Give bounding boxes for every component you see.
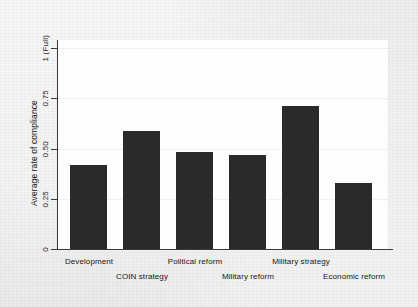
x-label-coin-strategy: COIN strategy [97,272,187,281]
y-axis-line [57,40,58,250]
bar-military-strategy [282,106,319,249]
x-label-political-reform: Political reform [150,257,240,266]
x-label-economic-reform: Economic reform [309,272,399,281]
bar-chart: 1 (Full) 0.75 0.50 0.25 0 Average rate o… [0,0,418,307]
gridline-075 [57,98,388,99]
bar-development [70,165,107,249]
bar-political-reform [176,152,213,249]
x-axis-line [57,249,393,250]
y-tick-label-0-wrap: 0 [36,242,50,256]
x-label-development: Development [44,257,134,266]
y-tick-label-075: 0.75 [41,90,50,106]
bar-military-reform [229,155,266,249]
gridline-050 [57,149,388,150]
y-axis-title: Average rate of compliance [27,63,41,243]
x-label-military-reform: Military reform [203,272,293,281]
x-label-military-strategy: Military strategy [256,257,346,266]
y-tick-label-1-wrap: 1 (Full) [36,30,50,66]
bar-economic-reform [335,183,372,249]
bar-coin-strategy [123,131,160,249]
y-tick-label-050: 0.50 [41,141,50,157]
y-tick-mark-075 [51,98,57,99]
y-tick-mark-0 [51,249,57,250]
y-tick-mark-025 [51,199,57,200]
y-tick-label-025: 0.25 [41,191,50,207]
y-tick-mark-050 [51,149,57,150]
gridline-1 [57,48,388,49]
y-tick-label-1: 1 (Full) [41,35,50,62]
y-tick-label-0: 0 [41,247,50,252]
y-tick-mark-1 [51,48,57,49]
